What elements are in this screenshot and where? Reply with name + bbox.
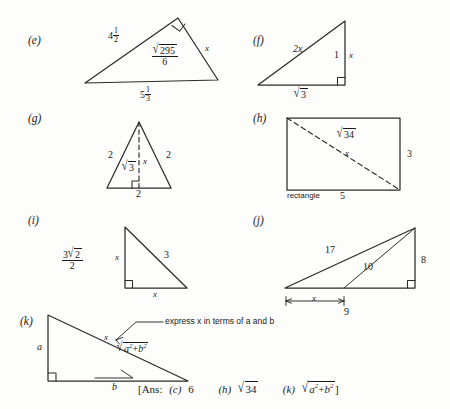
- label-e-interior-fraction: √295 6: [152, 44, 178, 67]
- figure-j-cevian: [344, 228, 415, 288]
- label-i-vertical: x: [115, 253, 119, 262]
- label-g-altitude-right: x: [143, 157, 147, 166]
- label-f-vertical-inner: 1: [334, 50, 339, 60]
- label-i-fraction-num: 3√2: [62, 248, 83, 261]
- label-h-diagonal: √34: [337, 128, 356, 140]
- problem-tag-e: (e): [28, 35, 41, 47]
- label-f-base: √3: [294, 88, 308, 100]
- answer-entry-k: (k) √a2+b2]: [283, 383, 339, 395]
- problem-tag-j: (j): [253, 215, 264, 227]
- figure-i-triangle: [125, 227, 187, 288]
- label-i-fraction-den: 2: [62, 261, 83, 271]
- label-i-radicand: 2: [74, 248, 82, 260]
- label-e-interior-num: √295: [152, 44, 178, 57]
- label-e-left-side: 412: [108, 27, 119, 44]
- label-g-altitude-radicand: 3: [128, 161, 136, 173]
- problem-tag-f: (f): [253, 35, 264, 47]
- problem-tag-h: (h): [253, 113, 266, 125]
- label-h-base: 5: [340, 191, 345, 201]
- label-f-hypotenuse: 2x: [293, 44, 302, 54]
- answer-tag-k: (k): [283, 383, 295, 395]
- problem-tag-k: (k): [20, 316, 33, 328]
- label-j-dim-total: 9: [344, 307, 349, 317]
- label-h-caption: rectangle: [287, 192, 320, 200]
- label-g-base: 2: [136, 189, 141, 199]
- label-e-interior-den: 6: [152, 57, 178, 67]
- label-h-height: 3: [407, 149, 412, 159]
- label-f-base-radicand: 3: [300, 88, 308, 100]
- label-i-fraction: 3√2 2: [62, 248, 83, 271]
- answer-line: [Ans: (c) 6 (h) √34 (k) √a2+b2]: [138, 381, 339, 395]
- answer-tag-h: (h): [218, 383, 231, 395]
- label-f-vertical-outer: x: [349, 51, 353, 60]
- answer-suffix: ]: [335, 383, 339, 395]
- label-k-vertical: a: [37, 342, 42, 352]
- label-e-base-den: 3: [145, 95, 151, 103]
- label-i-hypotenuse: 3: [164, 250, 169, 260]
- answer-value-k: √a2+b2: [302, 381, 335, 395]
- label-i-base: x: [153, 290, 157, 299]
- label-k-base: b: [112, 382, 117, 392]
- problem-tag-g: (g): [28, 113, 41, 125]
- answer-value-h: 34: [245, 381, 259, 395]
- label-g-altitude-left: √3: [122, 161, 136, 173]
- label-k-callout: express x in terms of a and b: [165, 317, 274, 326]
- label-h-diagonal-var: x: [345, 149, 349, 158]
- label-j-long-side: 17: [325, 245, 335, 255]
- label-j-cevian: 10: [363, 262, 373, 272]
- label-e-right-side: x: [205, 44, 209, 53]
- answer-tag-c: (c): [169, 383, 181, 395]
- figure-linework: [0, 0, 450, 409]
- problem-tag-i: (i): [28, 215, 39, 227]
- label-g-right-side: 2: [166, 150, 171, 160]
- label-j-vertical: 8: [421, 255, 426, 265]
- label-e-left-den: 2: [113, 36, 119, 44]
- answer-prefix: [Ans:: [138, 383, 162, 395]
- answer-entry-h: (h) √34: [218, 383, 260, 395]
- label-g-left-side: 2: [108, 150, 113, 160]
- label-e-radicand: 295: [159, 44, 177, 56]
- label-k-expr-b-exp: 2: [143, 341, 147, 349]
- answer-entry-c: (c) 6: [169, 383, 196, 395]
- figure-j-triangle: [285, 228, 415, 288]
- worksheet-page: (e) 412 √295 6 x 513 (f) 2x 1 x √3 (g) 2…: [0, 0, 450, 409]
- label-h-diagonal-radicand: 34: [343, 128, 356, 140]
- label-j-dim-x: x: [312, 294, 316, 303]
- label-k-hypotenuse-var: x: [104, 333, 108, 342]
- label-k-hypotenuse-expression: √a2+b2: [117, 342, 148, 354]
- answer-leader: [95, 370, 133, 378]
- label-e-base: 513: [140, 86, 151, 103]
- answer-value-c: 6: [188, 383, 194, 395]
